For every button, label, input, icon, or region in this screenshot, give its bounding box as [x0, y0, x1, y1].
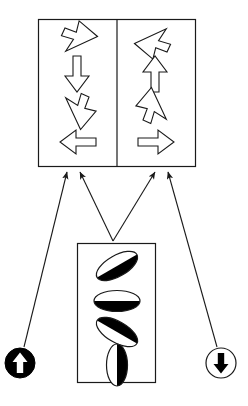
badge-up: [5, 348, 35, 378]
diagram-root: arrow-southeast arrow-south arrow-southw…: [0, 0, 248, 406]
ellipse-panel: [78, 244, 156, 388]
arrow-panel: [39, 16, 196, 167]
connector-ellipses-to-left-cell: [80, 172, 113, 241]
connector-badge-up-to-left-cell: [24, 172, 67, 347]
connector-ellipses-to-right-cell: [113, 172, 155, 241]
badge-down: [206, 348, 236, 378]
connector-badge-down-to-right-cell: [168, 172, 217, 347]
diagram-canvas: [0, 0, 248, 406]
